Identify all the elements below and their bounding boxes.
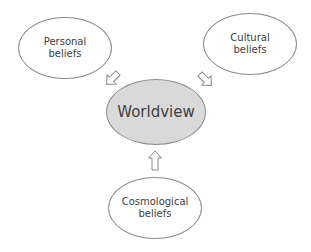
worldview-diagram: Personal beliefs Cultural beliefs Worldv…	[0, 0, 311, 252]
arrows-layer	[0, 0, 311, 252]
arrow-cosmological-to-worldview-icon	[149, 151, 162, 170]
arrow-personal-to-worldview-icon	[102, 68, 123, 89]
arrow-cultural-to-worldview-icon	[195, 69, 216, 90]
